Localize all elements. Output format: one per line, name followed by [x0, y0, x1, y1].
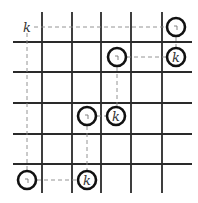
circle-node — [167, 18, 185, 36]
circle-node — [78, 107, 96, 125]
grid-lines — [13, 12, 192, 193]
circle-node: k — [78, 171, 96, 189]
node-label: k — [112, 109, 120, 124]
circle-icon — [108, 48, 126, 66]
circle-icon — [167, 18, 185, 36]
circle-icon — [18, 171, 36, 189]
circle-node: k — [107, 107, 125, 125]
circle-node — [18, 171, 36, 189]
node-label: k — [172, 50, 180, 65]
node-label: k — [83, 173, 91, 188]
corner-k-label: k — [23, 20, 31, 35]
circle-icon — [78, 107, 96, 125]
circle-node: k — [167, 48, 185, 66]
grid-diagram: kkk k — [0, 0, 198, 203]
circle-node — [108, 48, 126, 66]
